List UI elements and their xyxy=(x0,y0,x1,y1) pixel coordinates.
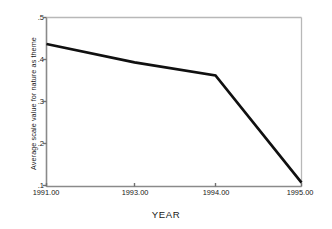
x-tick-label: 1995.00 xyxy=(270,189,330,196)
chart-container: Average scale value for nature as theme … xyxy=(0,0,332,229)
data-series-line xyxy=(47,44,302,183)
x-tick-label: 1991.00 xyxy=(16,189,76,196)
x-tick-label: 1994.00 xyxy=(186,189,246,196)
x-tick-label: 1993.00 xyxy=(105,189,165,196)
x-axis-title: YEAR xyxy=(0,209,332,220)
